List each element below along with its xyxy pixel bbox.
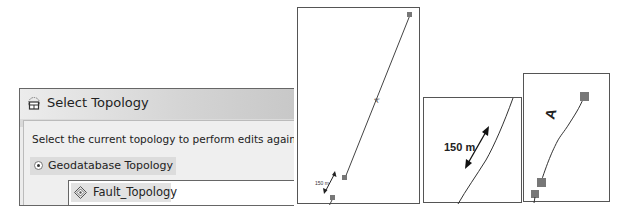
arrow-head-icon [332,171,337,177]
distance-label: 150 m [444,141,475,153]
topology-dialog-icon [27,97,41,111]
vertex-icon [531,190,539,198]
map-view-1: 150 m A [297,7,420,204]
radio-button-selected[interactable] [34,161,43,170]
map-view-3: A [523,73,610,202]
fault-line-map-3: A [524,74,611,203]
dialog-titlebar: Select Topology [20,89,294,119]
vertex-icon [580,92,589,101]
topology-name: Fault_Topology [93,185,177,199]
arrow-head-icon [465,159,472,169]
list-item-fault-topology[interactable]: Fault_Topology [71,183,171,202]
dialog-title: Select Topology [47,95,149,110]
arrow-head-icon [482,126,489,136]
vertex-icon [330,195,335,200]
dialog-prompt: Select the current topology to perform e… [32,133,294,145]
topology-listbox[interactable]: Fault_Topology [68,180,294,205]
distance-label: 150 m [315,180,329,186]
vertex-icon [537,178,546,187]
fault-line-map-1: 150 m A [298,8,421,205]
vertex-icon [342,175,347,180]
geodatabase-topology-radio-option[interactable]: Geodatabase Topology [30,157,176,175]
topology-icon [74,186,87,199]
fault-line-map-2: 150 m [424,98,523,204]
line-label: A [541,107,559,121]
map-view-2: 150 m [423,97,522,203]
vertex-icon [407,12,412,17]
line-label: A [372,96,380,103]
select-topology-dialog: Select Topology Select the current topol… [19,88,294,206]
radio-label: Geodatabase Topology [48,159,173,172]
dialog-body: Select the current topology to perform e… [23,120,294,205]
